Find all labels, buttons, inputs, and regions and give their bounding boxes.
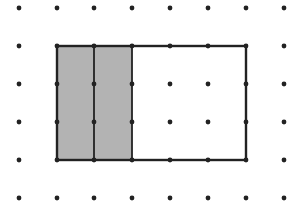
grid-dot	[244, 6, 249, 11]
grid-dot	[55, 120, 60, 125]
grid-dot	[55, 196, 60, 201]
grid-dot	[282, 6, 287, 11]
grid-dot	[130, 44, 135, 49]
grid-dot	[282, 44, 287, 49]
grid-dot	[17, 196, 22, 201]
grid-dot	[17, 82, 22, 87]
grid-dot	[282, 196, 287, 201]
grid-dot	[206, 158, 211, 163]
grid-dot	[92, 82, 97, 87]
grid-dot	[92, 44, 97, 49]
grid-dot	[168, 82, 173, 87]
grid-dot	[17, 158, 22, 163]
grid-dot	[55, 82, 60, 87]
grid-dot	[17, 44, 22, 49]
grid-dot	[282, 158, 287, 163]
grid-dot	[130, 196, 135, 201]
grid-dot	[130, 158, 135, 163]
grid-dot	[168, 120, 173, 125]
grid-dot	[168, 6, 173, 11]
grid-dot	[168, 196, 173, 201]
grid-dot	[168, 44, 173, 49]
grid-dot	[55, 6, 60, 11]
grid-dot	[244, 44, 249, 49]
grid-dot	[168, 158, 173, 163]
grid-dot	[130, 6, 135, 11]
grid-dot	[92, 196, 97, 201]
grid-dot	[244, 196, 249, 201]
grid-dot	[17, 6, 22, 11]
grid-dot	[282, 120, 287, 125]
grid-dot	[282, 82, 287, 87]
grid-dot	[206, 6, 211, 11]
grid-dot	[17, 120, 22, 125]
grid-dot	[206, 120, 211, 125]
grid-dot	[206, 44, 211, 49]
grid-dot	[130, 120, 135, 125]
grid-dot	[244, 82, 249, 87]
grid-dot	[206, 196, 211, 201]
grid-dot	[92, 158, 97, 163]
grid-dot	[206, 82, 211, 87]
grid-dot	[130, 82, 135, 87]
grid-dot	[244, 158, 249, 163]
grid-dot	[92, 120, 97, 125]
grid-dot	[92, 6, 97, 11]
dot-grid-diagram	[0, 0, 304, 222]
grid-dot	[55, 44, 60, 49]
grid-dot	[55, 158, 60, 163]
grid-dot	[244, 120, 249, 125]
